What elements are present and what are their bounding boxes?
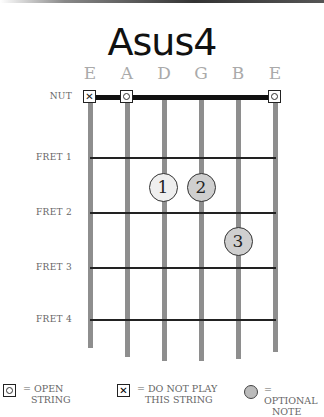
fret-line [90, 319, 276, 321]
fret-line [90, 212, 276, 214]
row-label: NUT [0, 91, 72, 101]
nut-bar [86, 95, 279, 100]
guitar-string [88, 97, 93, 348]
string-name-label: G [191, 63, 211, 83]
chord-title: Asus4 [0, 20, 324, 64]
mute-string-icon: ✕ [83, 90, 96, 103]
optional-note-legend-text: = OPTIONALNOTE [264, 384, 324, 417]
string-name-label: B [228, 63, 248, 83]
string-name-label: D [154, 63, 174, 83]
fret-line [90, 267, 276, 269]
guitar-string [273, 97, 278, 352]
open-string-legend-icon [3, 384, 16, 397]
row-label: FRET 2 [0, 207, 72, 217]
row-label: FRET 3 [0, 262, 72, 272]
string-name-label: A [117, 63, 137, 83]
finger-position-marker: 1 [149, 173, 178, 202]
open-string-legend-text: = OPENSTRING [23, 383, 71, 405]
open-string-icon [268, 90, 281, 103]
mute-string-legend-text: = DO NOT PLAYTHIS STRING [137, 383, 217, 405]
fret-line [90, 157, 276, 159]
string-name-label: E [80, 63, 100, 83]
row-label: FRET 4 [0, 314, 72, 324]
optional-note-legend-icon [244, 385, 258, 399]
finger-position-marker: 2 [187, 173, 216, 202]
guitar-string [125, 97, 130, 357]
top-border-line [0, 0, 324, 3]
finger-position-marker: 3 [224, 227, 253, 256]
row-label: FRET 1 [0, 152, 72, 162]
guitar-string [162, 97, 167, 361]
guitar-string [199, 97, 204, 361]
open-string-icon [120, 90, 133, 103]
string-name-label: E [265, 63, 285, 83]
mute-string-legend-icon: ✕ [117, 384, 130, 397]
